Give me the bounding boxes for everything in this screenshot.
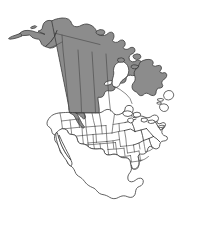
island-southampton xyxy=(118,58,125,62)
island-victoria xyxy=(96,30,105,36)
island-long-island xyxy=(158,125,164,127)
region-alaska-peninsula xyxy=(9,34,23,40)
north-america-map-svg xyxy=(0,0,199,235)
island-cape-breton-nova-scotia xyxy=(160,104,169,112)
island-anticosti xyxy=(158,98,164,101)
island-baffin-south-tip xyxy=(133,54,141,60)
island-prince-edward xyxy=(157,102,162,104)
island-newfoundland xyxy=(164,91,174,101)
region-ungava-notch xyxy=(131,65,139,69)
region-alaska-north-notch xyxy=(31,26,37,29)
hudson-bay xyxy=(112,62,129,88)
range-map-figure: Alaska xyxy=(0,0,199,235)
